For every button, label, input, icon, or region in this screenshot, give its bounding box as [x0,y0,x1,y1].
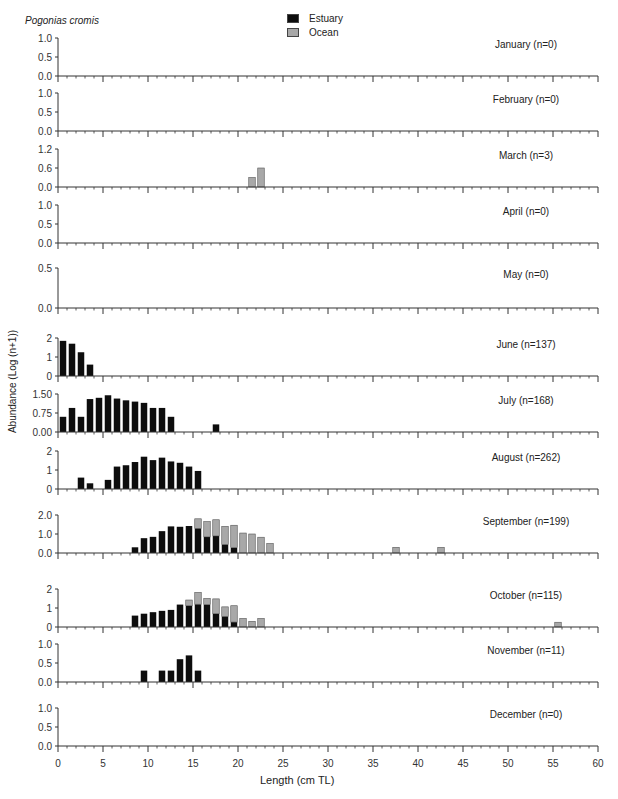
y-axis-label: Abundance (Log (n+1)) [7,322,18,442]
legend-item-ocean: Ocean [287,25,343,39]
estuary-bar [231,548,238,553]
y-tick-label: 1.2 [38,144,52,155]
y-tick-label: 0.0 [38,182,52,193]
estuary-bar [87,365,94,376]
month-label: December (n=0) [490,709,563,720]
estuary-bar [177,605,184,627]
estuary-bar [87,483,94,489]
estuary-bar [78,417,85,432]
y-tick-label: 1.0 [38,200,52,211]
y-tick-label: 1.50 [33,389,53,400]
estuary-bar [150,460,157,489]
ocean-bar [249,178,256,188]
panel-june: 012June (n=137) [46,333,598,383]
y-tick-label: 1 [46,352,52,363]
panel-january: 0.00.51.0January (n=0) [38,33,598,83]
x-tick-label: 20 [232,758,244,769]
month-label: September (n=199) [483,516,569,527]
x-tick-label: 50 [502,758,514,769]
estuary-bar [132,462,139,489]
y-tick-label: 1.0 [38,88,52,99]
estuary-bar [132,547,139,553]
x-tick-label: 60 [592,758,604,769]
month-label: October (n=115) [490,590,562,601]
y-tick-label: 2 [46,446,52,457]
estuary-bar [123,465,130,489]
estuary-bar [213,424,220,432]
estuary-bar [87,399,94,432]
estuary-bar [195,528,202,553]
y-tick-label: 0.0 [38,126,52,137]
y-tick-label: 0.0 [38,238,52,249]
estuary-bar [150,612,157,627]
estuary-bar [114,467,121,489]
y-tick-label: 0.0 [38,303,52,314]
ocean-bar [195,519,202,529]
estuary-bar [222,544,229,553]
month-label: August (n=262) [492,452,561,463]
ocean-swatch-icon [287,28,299,37]
estuary-bar [141,457,148,489]
y-tick-label: 2 [46,333,52,344]
ocean-bar [240,618,247,627]
ocean-bar [213,599,220,614]
estuary-bar [204,605,211,627]
estuary-bar [159,671,166,682]
estuary-bar [150,537,157,553]
y-tick-label: 1.0 [38,33,52,44]
y-tick-label: 1 [46,465,52,476]
estuary-bar [132,402,139,432]
month-label: June (n=137) [496,339,555,350]
y-tick-label: 0 [46,484,52,495]
estuary-bar [195,471,202,489]
panel-august: 012August (n=262) [46,446,598,496]
estuary-bar [78,352,85,376]
estuary-bar [231,622,238,627]
y-tick-label: 1.0 [38,639,52,650]
y-tick-label: 0 [46,622,52,633]
estuary-bar [168,461,175,489]
ocean-bar [213,520,220,536]
estuary-bar [150,408,157,432]
y-tick-label: 1.0 [38,529,52,540]
estuary-bar [114,399,121,432]
month-label: February (n=0) [493,94,559,105]
estuary-bar [132,616,139,627]
x-axis-label: Length (cm TL) [260,774,334,786]
estuary-bar [141,671,148,682]
x-tick-label: 55 [547,758,559,769]
estuary-swatch-icon [287,14,299,23]
month-label: May (n=0) [503,269,548,280]
length-frequency-chart: 0.00.51.0January (n=0)0.00.51.0February … [0,0,618,799]
y-tick-label: 0.0 [38,548,52,559]
y-tick-label: 0.5 [38,52,52,63]
legend-label-estuary: Estuary [309,13,343,24]
y-tick-label: 2.0 [38,510,52,521]
estuary-bar [168,610,175,627]
y-tick-label: 0.6 [38,163,52,174]
month-label: April (n=0) [503,206,549,217]
ocean-bar [393,547,400,553]
ocean-bar [555,622,562,627]
estuary-bar [141,538,148,553]
y-tick-label: 0.5 [38,219,52,230]
ocean-bar [258,168,265,187]
panel-february: 0.00.51.0February (n=0) [38,88,598,138]
y-tick-label: 0.5 [38,658,52,669]
estuary-bar [123,400,130,432]
panel-march: 0.00.61.2March (n=3) [38,144,598,194]
estuary-bar [159,531,166,553]
estuary-bar [168,526,175,553]
x-tick-label: 35 [367,758,379,769]
y-tick-label: 0.5 [38,722,52,733]
x-tick-label: 30 [322,758,334,769]
panel-october: 012October (n=115) [46,584,598,634]
y-tick-label: 2 [46,584,52,595]
x-tick-label: 15 [187,758,199,769]
ocean-bar [204,522,211,537]
y-tick-label: 0.5 [38,107,52,118]
y-tick-label: 0.75 [33,408,53,419]
estuary-bar [222,616,229,627]
month-label: July (n=168) [498,395,553,406]
estuary-bar [60,341,67,376]
